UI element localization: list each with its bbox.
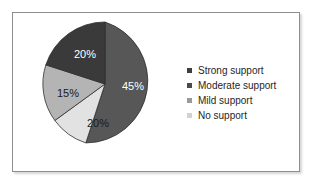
legend-swatch-icon (187, 98, 192, 103)
legend-item-moderate-support[interactable]: Moderate support (187, 79, 297, 92)
legend-label-no-support: No support (198, 110, 247, 122)
legend-swatch-icon (187, 83, 192, 88)
legend-item-no-support[interactable]: No support (187, 109, 297, 122)
pie-slice-label-mild-support: 15% (57, 87, 79, 99)
pie-chart-svg: 45% 20% 15% 20% (37, 16, 173, 152)
legend-label-moderate-support: Moderate support (198, 80, 276, 92)
figure-root: 45% 20% 15% 20% Strong support Moderate … (0, 0, 312, 186)
legend-swatch-icon (187, 68, 192, 73)
legend-label-mild-support: Mild support (198, 95, 252, 107)
legend-item-mild-support[interactable]: Mild support (187, 94, 297, 107)
pie-slice-label-no-support: 20% (74, 48, 96, 60)
legend-label-strong-support: Strong support (198, 65, 264, 77)
pie-slice-label-strong-support: 45% (122, 80, 144, 92)
chart-panel: 45% 20% 15% 20% Strong support Moderate … (12, 12, 300, 172)
legend-item-strong-support[interactable]: Strong support (187, 64, 297, 77)
legend-swatch-icon (187, 113, 192, 118)
chart-legend: Strong support Moderate support Mild sup… (187, 64, 297, 124)
pie-chart: 45% 20% 15% 20% (37, 16, 173, 152)
pie-slice-label-moderate-support: 20% (87, 117, 109, 129)
